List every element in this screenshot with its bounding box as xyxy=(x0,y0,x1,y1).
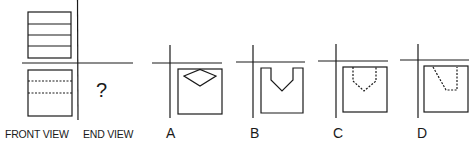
option-a-label[interactable]: A xyxy=(166,125,175,141)
option-b-figure[interactable] xyxy=(236,45,305,118)
option-d-label[interactable]: D xyxy=(417,125,427,141)
option-b-label[interactable]: B xyxy=(250,125,259,141)
option-c-label[interactable]: C xyxy=(333,125,343,141)
unknown-end-view-symbol: ? xyxy=(96,79,107,102)
option-a-figure[interactable] xyxy=(152,45,222,118)
projection-vertical-axis xyxy=(78,0,79,120)
diagram-canvas xyxy=(0,0,474,143)
front-view-label: FRONT VIEW xyxy=(5,128,69,140)
top-view-shape xyxy=(28,12,71,58)
end-view-label: END VIEW xyxy=(83,128,133,140)
option-c-figure[interactable] xyxy=(318,44,388,118)
front-view-shape xyxy=(28,70,72,116)
option-d-figure[interactable] xyxy=(400,44,469,118)
